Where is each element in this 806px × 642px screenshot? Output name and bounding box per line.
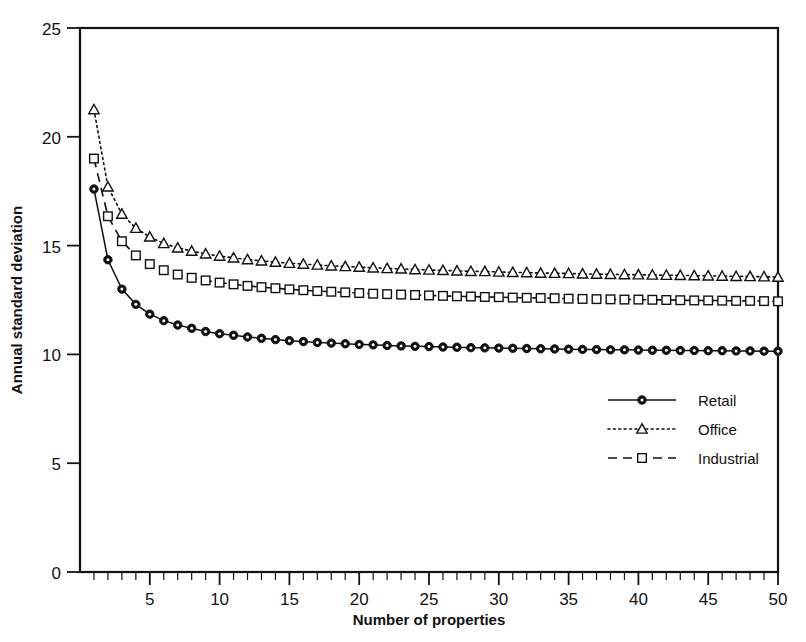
marker-dot-center [288, 339, 291, 342]
marker-dot-center [581, 348, 584, 351]
marker-dot-center [218, 332, 221, 335]
y-tick-label: 15 [42, 238, 61, 257]
marker-dot-center [567, 348, 570, 351]
x-tick-label: 25 [420, 590, 439, 609]
marker-open-square [341, 288, 350, 297]
marker-dot-center [428, 345, 431, 348]
x-tick-label: 20 [350, 590, 369, 609]
marker-open-square [746, 297, 755, 306]
marker-open-square [760, 297, 769, 306]
marker-open-square [146, 260, 155, 269]
marker-open-square [690, 296, 699, 305]
marker-open-square [439, 292, 448, 301]
chart-figure: 51015202530354045500510152025Number of p… [0, 0, 806, 642]
marker-open-triangle [145, 232, 155, 241]
marker-open-square [355, 289, 364, 298]
marker-open-square [215, 278, 224, 287]
marker-dot-center [651, 349, 654, 352]
marker-dot-center [693, 349, 696, 352]
marker-open-square [271, 284, 280, 293]
series-retail [90, 185, 782, 356]
marker-open-square [383, 290, 392, 299]
marker-dot-center [400, 344, 403, 347]
marker-open-square [662, 296, 671, 305]
marker-dot-center [707, 349, 710, 352]
marker-open-square [397, 290, 406, 299]
y-tick-label: 25 [42, 20, 61, 39]
marker-open-square [299, 286, 308, 295]
marker-open-triangle [89, 104, 99, 113]
marker-dot-center [469, 346, 472, 349]
y-tick-label: 10 [42, 346, 61, 365]
marker-dot-center [246, 335, 249, 338]
marker-open-square [578, 295, 587, 304]
line-chart: 51015202530354045500510152025Number of p… [0, 0, 806, 642]
marker-open-triangle [214, 251, 224, 260]
marker-open-square [536, 294, 545, 303]
marker-open-triangle [117, 209, 127, 218]
marker-dot-center [595, 348, 598, 351]
legend-label: Retail [698, 392, 736, 409]
marker-dot-center [260, 337, 263, 340]
marker-dot-center [665, 349, 668, 352]
marker-open-square [411, 291, 420, 300]
marker-dot-center [609, 348, 612, 351]
marker-dot-center [539, 347, 542, 350]
marker-dot-center [344, 342, 347, 345]
legend-item-office[interactable]: Office [608, 421, 737, 438]
marker-dot-center [525, 347, 528, 350]
legend-item-industrial[interactable]: Industrial [608, 450, 759, 467]
marker-open-square [313, 287, 322, 296]
y-tick-label: 20 [42, 129, 61, 148]
marker-open-square [229, 280, 238, 289]
marker-open-square [774, 297, 783, 306]
marker-open-square [550, 294, 559, 303]
legend-item-retail[interactable]: Retail [608, 392, 736, 409]
marker-dot-center [232, 334, 235, 337]
marker-dot-center [749, 349, 752, 352]
marker-open-square [564, 294, 573, 303]
marker-dot-center [735, 349, 738, 352]
marker-open-square [425, 291, 434, 300]
marker-open-triangle [173, 243, 183, 252]
marker-dot-center [497, 347, 500, 350]
marker-open-triangle [494, 267, 504, 276]
marker-dot-center [302, 340, 305, 343]
x-tick-label: 30 [489, 590, 508, 609]
marker-open-square [453, 292, 462, 301]
marker-open-triangle [103, 182, 113, 191]
marker-dot-center [637, 349, 640, 352]
series-line [94, 110, 778, 278]
marker-dot-center [721, 349, 724, 352]
y-tick-label: 5 [52, 455, 61, 474]
marker-dot-center [190, 327, 193, 330]
marker-dot-center [483, 346, 486, 349]
marker-open-square [118, 237, 127, 246]
x-tick-label: 45 [699, 590, 718, 609]
x-tick-label: 40 [629, 590, 648, 609]
marker-open-square [606, 295, 615, 304]
marker-dot-center [204, 330, 207, 333]
series-industrial [90, 154, 783, 305]
marker-open-square [173, 270, 182, 279]
marker-dot-center [777, 350, 780, 353]
marker-open-square [201, 276, 210, 285]
marker-open-square [508, 293, 517, 302]
x-tick-label: 10 [210, 590, 229, 609]
marker-dot-center [372, 343, 375, 346]
marker-dot-center [414, 345, 417, 348]
series-line [94, 189, 778, 351]
marker-open-square [481, 293, 490, 302]
marker-open-square [732, 297, 741, 306]
y-axis-title: Annual standard deviation [8, 206, 25, 394]
marker-dot-center [106, 258, 109, 261]
marker-open-square [159, 266, 168, 275]
marker-open-square [592, 295, 601, 304]
x-tick-label: 35 [559, 590, 578, 609]
marker-open-square [704, 296, 713, 305]
marker-open-square [243, 282, 252, 291]
marker-open-triangle [159, 238, 169, 247]
marker-dot-center [455, 346, 458, 349]
marker-open-square [327, 287, 336, 296]
marker-dot-center [92, 188, 95, 191]
